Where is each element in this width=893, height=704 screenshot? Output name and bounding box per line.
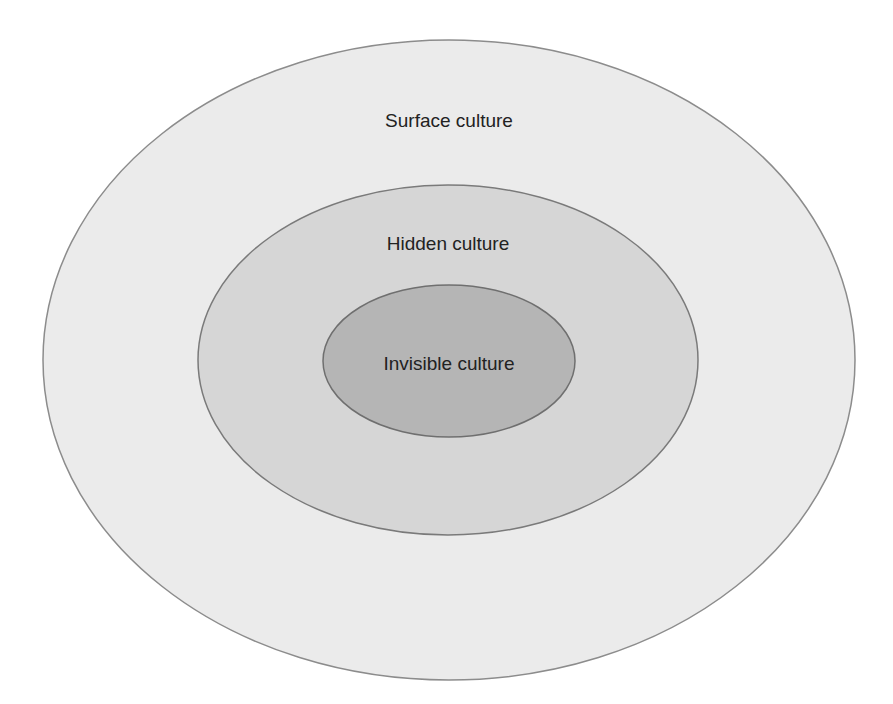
surface-culture-label: Surface culture xyxy=(385,110,513,131)
invisible-culture-label: Invisible culture xyxy=(384,353,515,374)
hidden-culture-label: Hidden culture xyxy=(387,233,510,254)
culture-layers-diagram: Surface culture Hidden culture Invisible… xyxy=(0,0,893,704)
